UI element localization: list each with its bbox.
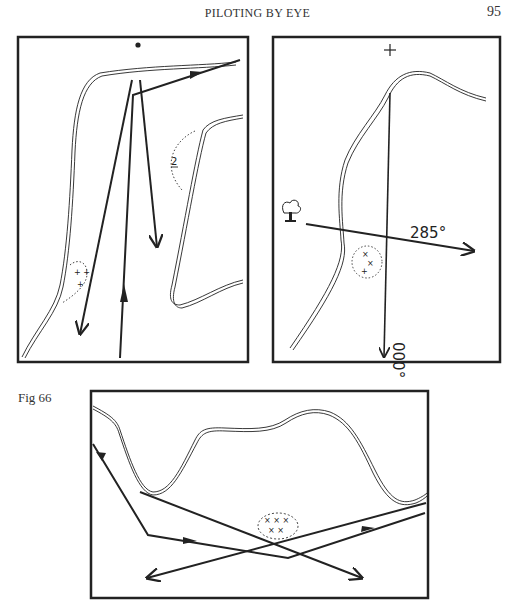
tree-icon <box>283 200 301 222</box>
bearing-000: 000° <box>389 342 407 378</box>
svg-text:+ +: + + <box>74 268 90 277</box>
depth-label: 2 <box>171 156 177 167</box>
svg-text:×: × <box>362 250 369 259</box>
figure-66: 2 + + + 285° 000° × × + <box>0 0 515 607</box>
svg-text:× ×: × × <box>268 526 284 535</box>
svg-text:+: + <box>361 267 368 276</box>
svg-text:+: + <box>77 280 84 289</box>
top-dot-marker <box>135 42 140 47</box>
top-cross-marker <box>384 44 396 56</box>
panel-3: × × × × × <box>91 391 428 598</box>
svg-text:×: × <box>367 259 374 268</box>
panel-1: 2 + + + <box>18 37 248 362</box>
svg-text:× × ×: × × × <box>264 516 289 525</box>
bearing-285: 285° <box>410 224 446 242</box>
shoreline <box>93 406 427 505</box>
panel-2: 285° 000° × × + <box>273 37 500 378</box>
